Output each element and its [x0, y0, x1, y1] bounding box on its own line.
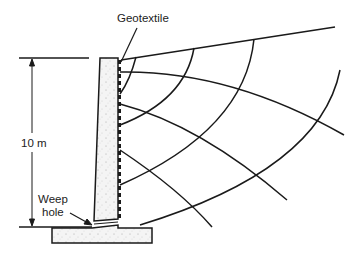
base-slab [52, 225, 152, 243]
retaining-wall [94, 58, 118, 221]
flow-lines [120, 72, 344, 227]
geotextile-leader [121, 28, 137, 62]
geotextile-label: Geotextile [117, 12, 169, 24]
weep-hole-arrow [70, 213, 92, 225]
equipotential-lines [120, 39, 340, 225]
backfill-surface [121, 27, 335, 60]
height-label: 10 m [21, 137, 47, 149]
weep-hole-label-line2: hole [42, 206, 64, 218]
weep-hole [94, 222, 118, 224]
weep-hole-label-line1: Weep [38, 193, 68, 205]
